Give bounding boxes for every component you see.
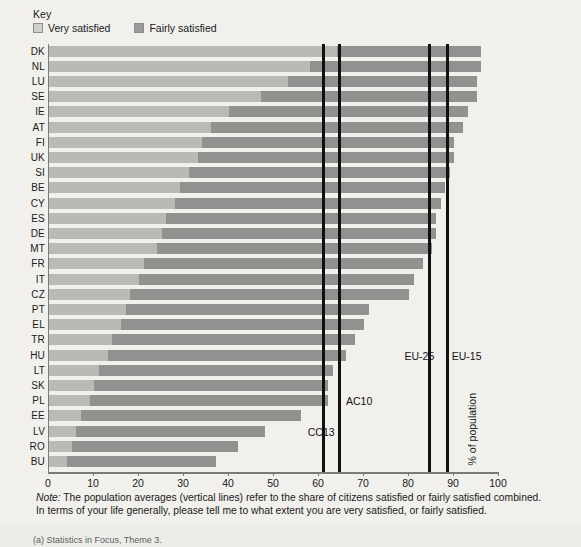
bar-segment-very-satisfied: [49, 182, 180, 193]
bar-segment-very-satisfied: [49, 213, 166, 224]
average-line-label-eu-15: EU-15: [452, 350, 482, 362]
y-axis-label-fr: FR: [1, 258, 45, 269]
x-axis-tick-label-100: 100: [489, 477, 507, 489]
y-axis-label-se: SE: [1, 91, 45, 102]
x-axis-tick: [363, 472, 364, 476]
y-axis-label-ie: IE: [1, 106, 45, 117]
y-axis-label-it: IT: [1, 274, 45, 285]
bar-segment-fairly-satisfied: [180, 182, 446, 193]
average-line-label-ac10: AC10: [346, 395, 372, 407]
y-axis-label-fi: FI: [1, 137, 45, 148]
bar-segment-fairly-satisfied: [202, 137, 454, 148]
x-axis-tick-label-0: 0: [45, 477, 51, 489]
bar-segment-fairly-satisfied: [126, 304, 369, 315]
bar-segment-fairly-satisfied: [81, 410, 302, 421]
bar-segment-fairly-satisfied: [229, 106, 468, 117]
x-axis-tick-label-30: 30: [177, 477, 189, 489]
footer-source-text: (a) Statistics in Focus, Theme 3.: [33, 535, 162, 545]
y-axis-label-mt: MT: [1, 243, 45, 254]
bar-segment-very-satisfied: [49, 167, 189, 178]
bar-segment-very-satisfied: [49, 410, 81, 421]
legend-item-very-satisfied: Very satisfied: [33, 22, 110, 34]
average-line-label-cc13: CC13: [308, 426, 335, 438]
legend-swatch-fairly-satisfied-icon: [134, 23, 144, 33]
bar-segment-very-satisfied: [49, 106, 229, 117]
bar-segment-very-satisfied: [49, 426, 76, 437]
y-axis-label-pl: PL: [1, 395, 45, 406]
bar-segment-very-satisfied: [49, 198, 175, 209]
x-axis-tick: [93, 472, 94, 476]
y-axis-label-pt: PT: [1, 304, 45, 315]
x-axis-tick: [408, 472, 409, 476]
bar-segment-fairly-satisfied: [112, 334, 355, 345]
bar-segment-fairly-satisfied: [157, 243, 432, 254]
note-line-1: The population averages (vertical lines)…: [61, 492, 542, 503]
x-axis-ticks: 0102030405060708090100: [48, 472, 503, 492]
average-line-eu-15: [446, 44, 449, 472]
bar-segment-very-satisfied: [49, 365, 99, 376]
y-axis-label-lu: LU: [1, 76, 45, 87]
bar-segment-very-satisfied: [49, 334, 112, 345]
legend-label-very-satisfied: Very satisfied: [48, 22, 110, 34]
y-axis-label-tr: TR: [1, 334, 45, 345]
bar-segment-very-satisfied: [49, 289, 130, 300]
legend-title: Key: [33, 8, 333, 20]
bar-segment-fairly-satisfied: [310, 61, 481, 72]
legend-item-fairly-satisfied: Fairly satisfied: [134, 22, 216, 34]
note-prefix: Note:: [36, 492, 61, 503]
bar-segment-very-satisfied: [49, 61, 310, 72]
average-line-ac10: [338, 44, 341, 472]
bar-segment-very-satisfied: [49, 304, 126, 315]
bar-segment-fairly-satisfied: [94, 380, 328, 391]
bar-segment-very-satisfied: [49, 395, 90, 406]
y-axis-label-sk: SK: [1, 380, 45, 391]
legend-label-fairly-satisfied: Fairly satisfied: [149, 22, 216, 34]
bar-segment-fairly-satisfied: [139, 274, 414, 285]
bar-segment-very-satisfied: [49, 76, 288, 87]
bar-segment-very-satisfied: [49, 350, 108, 361]
bar-segment-very-satisfied: [49, 258, 144, 269]
y-axis-label-cy: CY: [1, 198, 45, 209]
y-axis-label-es: ES: [1, 213, 45, 224]
x-axis-tick-label-80: 80: [402, 477, 414, 489]
note-line-2: In terms of your life generally, please …: [36, 505, 487, 516]
plot-area: CC13AC10EU-25EU-15: [48, 44, 499, 472]
x-axis-tick: [318, 472, 319, 476]
bar-segment-very-satisfied: [49, 91, 261, 102]
bar-segment-fairly-satisfied: [67, 456, 216, 467]
bar-segment-fairly-satisfied: [108, 350, 347, 361]
bar-segment-fairly-satisfied: [337, 46, 481, 57]
x-axis-tick-label-60: 60: [312, 477, 324, 489]
y-axis-label-de: DE: [1, 228, 45, 239]
x-axis-tick: [273, 472, 274, 476]
bar-segment-very-satisfied: [49, 456, 67, 467]
bar-segment-very-satisfied: [49, 152, 198, 163]
x-axis-tick-label-90: 90: [447, 477, 459, 489]
x-axis-tick-label-10: 10: [87, 477, 99, 489]
chart-note: Note: The population averages (vertical …: [36, 492, 556, 517]
legend-swatch-very-satisfied-icon: [33, 23, 43, 33]
chart-legend: Key Very satisfied Fairly satisfied: [33, 8, 333, 40]
y-axis-label-lv: LV: [1, 426, 45, 437]
y-axis-label-el: EL: [1, 319, 45, 330]
y-axis-label-at: AT: [1, 122, 45, 133]
bar-segment-very-satisfied: [49, 228, 162, 239]
bar-segment-fairly-satisfied: [121, 319, 364, 330]
bar-segment-fairly-satisfied: [130, 289, 409, 300]
bar-segment-fairly-satisfied: [261, 91, 477, 102]
y-axis-label-bu: BU: [1, 456, 45, 467]
x-axis-tick-label-50: 50: [267, 477, 279, 489]
bar-segment-very-satisfied: [49, 122, 211, 133]
x-axis-tick: [498, 472, 499, 476]
bar-segment-very-satisfied: [49, 319, 121, 330]
x-axis-tick: [228, 472, 229, 476]
y-axis-title: % of population: [466, 393, 478, 465]
average-line-label-eu-25: EU-25: [405, 350, 435, 362]
average-line-eu-25: [428, 44, 431, 472]
x-axis-tick: [453, 472, 454, 476]
x-axis-tick-label-20: 20: [132, 477, 144, 489]
y-axis-label-be: BE: [1, 182, 45, 193]
x-axis-tick-label-70: 70: [357, 477, 369, 489]
chart-figure: Key Very satisfied Fairly satisfied DKNL…: [0, 0, 581, 547]
bar-segment-fairly-satisfied: [189, 167, 450, 178]
